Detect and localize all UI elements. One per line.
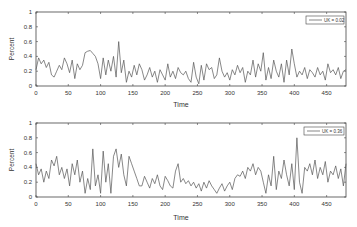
x-tick-label: 0: [34, 90, 38, 96]
chart-figure: 00.20.40.60.81 0501001502002503003504004…: [0, 0, 357, 227]
y-tick-label: 0.2: [24, 179, 33, 185]
x-tick-label: 50: [65, 90, 72, 96]
y-tick-label: 0.8: [24, 24, 33, 30]
top-plot-frame: [36, 12, 346, 86]
top-plot-x-ticks: 050100150200250300350400450: [34, 12, 332, 96]
y-tick-label: 0.6: [24, 39, 33, 45]
y-tick-label: 0.8: [24, 135, 33, 141]
x-tick-label: 300: [225, 90, 236, 96]
y-tick-label: 0.6: [24, 150, 33, 156]
x-tick-label: 350: [257, 201, 268, 207]
top-plot-series-line: [36, 42, 346, 84]
y-tick-label: 0.2: [24, 68, 33, 74]
bottom-plot-x-ticks: 050100150200250300350400450: [34, 123, 332, 207]
bottom-plot-series-line: [36, 138, 346, 194]
x-tick-label: 350: [257, 90, 268, 96]
x-tick-label: 100: [96, 201, 107, 207]
x-tick-label: 50: [65, 201, 72, 207]
top-plot-legend-label: UK = 0.02: [324, 18, 345, 23]
x-tick-label: 100: [96, 90, 107, 96]
top-plot-legend: UK = 0.02: [306, 16, 345, 24]
y-tick-label: 0.4: [24, 53, 33, 59]
x-tick-label: 450: [322, 201, 333, 207]
x-tick-label: 200: [160, 201, 171, 207]
x-tick-label: 150: [128, 201, 139, 207]
y-tick-label: 1: [29, 120, 33, 126]
y-tick-label: 0: [29, 83, 33, 89]
top-plot: 00.20.40.60.81 0501001502002503003504004…: [8, 9, 346, 108]
bottom-plot-y-axis-label: Percent: [8, 149, 15, 172]
top-plot-y-ticks: 00.20.40.60.81: [24, 9, 346, 89]
x-tick-label: 400: [289, 90, 300, 96]
x-tick-label: 250: [192, 90, 203, 96]
x-tick-label: 200: [160, 90, 171, 96]
x-tick-label: 250: [192, 201, 203, 207]
bottom-plot: 00.20.40.60.81 0501001502002503003504004…: [8, 120, 346, 221]
x-tick-label: 450: [322, 90, 333, 96]
x-tick-label: 400: [289, 201, 300, 207]
bottom-plot-x-axis-label: Time: [173, 214, 188, 221]
y-tick-label: 0.4: [24, 164, 33, 170]
top-plot-y-axis-label: Percent: [8, 38, 15, 61]
x-tick-label: 150: [128, 90, 139, 96]
bottom-plot-legend-label: UK = 0.36: [322, 129, 343, 134]
x-tick-label: 0: [34, 201, 38, 207]
y-tick-label: 1: [29, 9, 33, 15]
x-tick-label: 300: [225, 201, 236, 207]
top-plot-x-axis-label: Time: [173, 101, 188, 108]
bottom-plot-y-ticks: 00.20.40.60.81: [24, 120, 346, 200]
y-tick-label: 0: [29, 194, 33, 200]
bottom-plot-legend: UK = 0.36: [304, 127, 344, 135]
